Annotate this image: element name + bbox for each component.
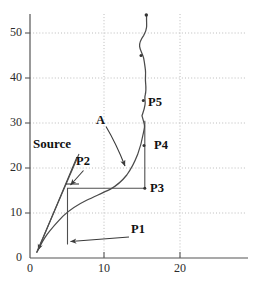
y-tick-label-20: 20 bbox=[2, 161, 22, 173]
x-tick-label-10: 10 bbox=[96, 262, 112, 274]
y-tick-label-0: 0 bbox=[2, 251, 22, 263]
main-curve bbox=[37, 15, 147, 253]
source-ray bbox=[37, 154, 80, 253]
y-tick-label-40: 40 bbox=[2, 71, 22, 83]
p1-arrow bbox=[71, 237, 130, 242]
y-tick-label-30: 30 bbox=[2, 116, 22, 128]
gridlines-horizontal bbox=[30, 33, 245, 213]
a-arrow bbox=[106, 127, 125, 167]
chart-canvas: 50 40 30 20 10 0 0 10 20 Source A P1 P2 … bbox=[0, 0, 255, 289]
annotation-p2: P2 bbox=[76, 155, 90, 168]
x-tick-label-0: 0 bbox=[22, 262, 38, 274]
annotation-p4: P4 bbox=[154, 139, 168, 152]
annotation-source: Source bbox=[33, 137, 71, 150]
annotation-p5: P5 bbox=[148, 96, 162, 109]
annotation-p1: P1 bbox=[131, 223, 145, 236]
x-tick-label-20: 20 bbox=[172, 262, 188, 274]
y-tick-label-50: 50 bbox=[2, 26, 22, 38]
y-tick-label-10: 10 bbox=[2, 206, 22, 218]
annotation-a: A bbox=[96, 114, 105, 127]
annotation-p3: P3 bbox=[150, 182, 164, 195]
